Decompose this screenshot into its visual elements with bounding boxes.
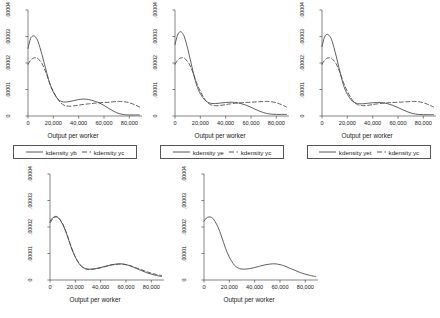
chart-panel-4: 0.00001.00002.00003.00004 020,00040,0006… <box>22 168 168 318</box>
x-axis-title-1: Output per worker <box>0 132 146 140</box>
chart-panel-2: 0.00001.00002.00003.00004 020,00040,0006… <box>147 4 293 164</box>
x-tick-label: 40,000 <box>217 120 234 127</box>
legend-swatch-solid <box>319 149 336 155</box>
x-tick-label: 20,000 <box>192 120 209 127</box>
x-tick-label: 80,000 <box>143 284 160 291</box>
legend-item-1: kdensity yc <box>82 149 125 156</box>
legend-3: kdensity yet kdensity yc <box>307 145 431 159</box>
series-line-0 <box>204 217 315 277</box>
x-tick-label: 80,000 <box>121 120 138 127</box>
x-tick-label: 80,000 <box>268 120 285 127</box>
x-tick-label: 20,000 <box>67 284 84 291</box>
legend-label-0: kdensity yb <box>46 149 77 156</box>
x-tick-label: 20,000 <box>45 120 62 127</box>
plot-svg-4 <box>22 168 168 294</box>
x-tick-label: 60,000 <box>271 284 288 291</box>
x-tick-label: 60,000 <box>389 120 406 127</box>
legend-label-0: kdensity yet <box>339 149 372 156</box>
x-tick-label: 20,000 <box>221 284 238 291</box>
x-tick-label: 20,000 <box>339 120 356 127</box>
x-tick-label: 0 <box>320 120 323 127</box>
legend-label-1: kdensity yc <box>94 149 125 156</box>
legend-item-1: kdensity yc <box>229 149 272 156</box>
legend-item-0: kdensity yet <box>319 149 372 156</box>
chart-panel-3: 0.00001.00002.00003.00004 020,00040,0006… <box>294 4 440 164</box>
x-axis-labels-4: 020,00040,00060,00080,000 <box>22 284 168 294</box>
x-axis-labels-3: 020,00040,00060,00080,000 <box>294 120 440 130</box>
x-tick-label: 0 <box>173 120 176 127</box>
plot-area-4: 0.00001.00002.00003.00004 020,00040,0006… <box>22 168 168 294</box>
legend-swatch-dashed <box>229 149 238 155</box>
chart-panel-5: 0.00001.00002.00003.00004 020,00040,0006… <box>176 168 322 318</box>
series-line-0 <box>50 217 161 277</box>
legend-label-1: kdensity yc <box>389 149 420 156</box>
x-tick-label: 40,000 <box>364 120 381 127</box>
x-tick-label: 0 <box>26 120 29 127</box>
x-axis-labels-1: 020,00040,00060,00080,000 <box>0 120 146 130</box>
plot-area-1: 0.00001.00002.00003.00004 020,00040,0006… <box>0 4 146 130</box>
x-tick-label: 40,000 <box>70 120 87 127</box>
legend-item-1: kdensity yc <box>377 149 420 156</box>
x-axis-title-4: Output per worker <box>22 296 168 304</box>
chart-grid: 0.00001.00002.00003.00004 020,00040,0006… <box>0 0 440 318</box>
x-tick-label: 0 <box>48 284 51 291</box>
x-axis-labels-2: 020,00040,00060,00080,000 <box>147 120 293 130</box>
x-tick-label: 40,000 <box>92 284 109 291</box>
series-line-1 <box>50 216 161 275</box>
series-line-0 <box>322 34 433 114</box>
x-tick-label: 60,000 <box>242 120 259 127</box>
x-axis-title-5: Output per worker <box>176 296 322 304</box>
legend-label-1: kdensity yc <box>241 149 272 156</box>
x-tick-label: 80,000 <box>415 120 432 127</box>
legend-2: kdensity ye kdensity yc <box>160 145 284 159</box>
legend-label-0: kdensity ye <box>193 149 224 156</box>
plot-svg-2 <box>147 4 293 130</box>
series-line-0 <box>175 32 286 115</box>
legend-item-0: kdensity yb <box>26 149 77 156</box>
x-tick-label: 40,000 <box>246 284 263 291</box>
x-axis-labels-5: 020,00040,00060,00080,000 <box>176 284 322 294</box>
plot-area-3: 0.00001.00002.00003.00004 020,00040,0006… <box>294 4 440 130</box>
chart-panel-1: 0.00001.00002.00003.00004 020,00040,0006… <box>0 4 146 164</box>
x-axis-title-2: Output per worker <box>147 132 293 140</box>
x-tick-label: 80,000 <box>297 284 314 291</box>
x-tick-label: 0 <box>202 284 205 291</box>
plot-svg-5 <box>176 168 322 294</box>
x-tick-label: 60,000 <box>95 120 112 127</box>
x-axis-title-3: Output per worker <box>294 132 440 140</box>
plot-area-5: 0.00001.00002.00003.00004 020,00040,0006… <box>176 168 322 294</box>
plot-svg-1 <box>0 4 146 130</box>
plot-area-2: 0.00001.00002.00003.00004 020,00040,0006… <box>147 4 293 130</box>
legend-swatch-dashed <box>377 149 386 155</box>
plot-svg-3 <box>294 4 440 130</box>
legend-swatch-dashed <box>82 149 91 155</box>
x-tick-label: 60,000 <box>117 284 134 291</box>
series-line-0 <box>28 36 139 115</box>
